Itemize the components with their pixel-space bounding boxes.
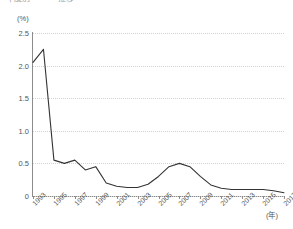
- x-axis-tick-mark: [284, 196, 285, 199]
- x-axis-tick-mark: [33, 196, 34, 199]
- y-axis-tick-label: 0: [5, 192, 29, 201]
- x-axis-tick-mark: [179, 196, 180, 199]
- x-axis-tick-mark: [75, 196, 76, 199]
- x-axis-tick-mark: [117, 196, 118, 199]
- x-axis-tick-mark: [96, 196, 97, 199]
- y-axis-tick-label: 1.0: [5, 127, 29, 136]
- x-axis-tick-mark: [200, 196, 201, 199]
- x-axis-tick-mark: [138, 196, 139, 199]
- x-axis-tick-mark: [159, 196, 160, 199]
- x-axis-tick-mark: [242, 196, 243, 199]
- x-axis-tick-mark: [221, 196, 222, 199]
- y-axis-tick-label: 1.5: [5, 94, 29, 103]
- x-axis-tick-mark: [54, 196, 55, 199]
- y-axis-tick-label: 2.0: [5, 62, 29, 71]
- chart-root: 年度別 ・・・推移 (%) (年) 00.51.01.52.02.5 19931…: [0, 0, 293, 229]
- x-axis-tick-mark: [263, 196, 264, 199]
- y-axis-tick-label: 2.5: [5, 29, 29, 38]
- y-axis-tick-label: 0.5: [5, 159, 29, 168]
